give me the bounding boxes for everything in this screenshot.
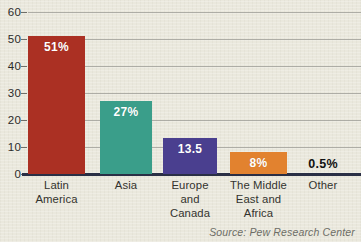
bar-value-label-1: 27% bbox=[100, 105, 152, 119]
category-label-1: Asia bbox=[90, 178, 162, 192]
gridline-60 bbox=[28, 12, 361, 13]
bar-1[interactable]: 27% bbox=[100, 101, 152, 174]
y-tick-50 bbox=[21, 39, 27, 40]
y-axis-label-40: 40 bbox=[8, 60, 21, 72]
bar-value-label-0: 51% bbox=[28, 40, 85, 54]
category-label-line: East and bbox=[218, 192, 299, 206]
bar-0[interactable]: 51% bbox=[28, 36, 85, 174]
bar-value-label-4: 0.5% bbox=[298, 157, 348, 171]
category-label-line: Latin bbox=[18, 178, 95, 192]
y-axis-label-50: 50 bbox=[8, 33, 21, 45]
bar-3[interactable]: 8% bbox=[230, 152, 287, 174]
y-tick-60 bbox=[21, 12, 27, 13]
y-axis-label-20: 20 bbox=[8, 114, 21, 126]
category-label-4: Other bbox=[290, 178, 356, 192]
category-label-line: America bbox=[18, 192, 95, 206]
y-tick-30 bbox=[21, 93, 27, 94]
category-label-line: and bbox=[153, 192, 227, 206]
bar-2[interactable]: 13.5 bbox=[163, 138, 217, 174]
category-label-3: The MiddleEast andAfrica bbox=[218, 178, 299, 220]
bar-chart: 6050403020100 51%27%13.58%0.5% LatinAmer… bbox=[0, 0, 361, 242]
category-label-line: Other bbox=[290, 178, 356, 192]
y-tick-40 bbox=[21, 66, 27, 67]
y-axis-label-30: 30 bbox=[8, 87, 21, 99]
category-label-line: Asia bbox=[90, 178, 162, 192]
y-tick-20 bbox=[21, 120, 27, 121]
category-label-line: Europe bbox=[153, 178, 227, 192]
category-label-line: Canada bbox=[153, 206, 227, 220]
bar-value-label-2: 13.5 bbox=[163, 142, 217, 156]
category-label-2: EuropeandCanada bbox=[153, 178, 227, 220]
category-label-line: Africa bbox=[218, 206, 299, 220]
y-axis-label-10: 10 bbox=[8, 141, 21, 153]
y-axis-label-60: 60 bbox=[8, 6, 21, 18]
category-label-line: The Middle bbox=[218, 178, 299, 192]
bar-value-label-3: 8% bbox=[230, 156, 287, 170]
category-label-0: LatinAmerica bbox=[18, 178, 95, 206]
source-attribution: Source: Pew Research Center bbox=[209, 226, 355, 238]
y-tick-10 bbox=[21, 147, 27, 148]
